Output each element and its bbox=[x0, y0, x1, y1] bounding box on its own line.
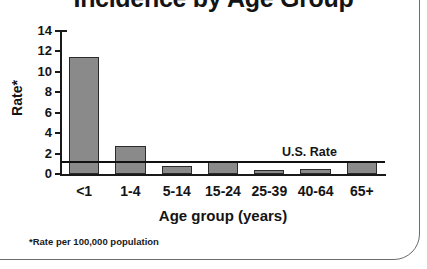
x-axis-title: Age group (years) bbox=[61, 207, 385, 224]
y-axis-tick-12 bbox=[55, 50, 62, 52]
y-axis-tick-4 bbox=[55, 132, 62, 134]
y-axis-tick-10 bbox=[55, 71, 62, 73]
y-axis-tick-label-14: 14 bbox=[30, 24, 52, 37]
x-axis-tick-label-25-39: 25-39 bbox=[246, 183, 292, 199]
y-axis-tick-label-6: 6 bbox=[30, 106, 52, 119]
y-axis-tick-8 bbox=[55, 91, 62, 93]
x-axis-tick-label-40-64: 40-64 bbox=[292, 183, 338, 199]
y-axis-tick-label-8: 8 bbox=[30, 85, 52, 98]
bar-40-64 bbox=[300, 169, 330, 174]
y-axis-tick-label-12: 12 bbox=[30, 44, 52, 57]
us-rate-label: U.S. Rate bbox=[282, 145, 337, 159]
bar-65+ bbox=[347, 162, 377, 174]
y-axis-tick-2 bbox=[55, 153, 62, 155]
y-axis-tick-labels: 02468101214 bbox=[26, 0, 52, 269]
y-axis-tick-label-2: 2 bbox=[30, 147, 52, 160]
x-axis-spine bbox=[60, 174, 386, 176]
x-axis-tick-label-15-24: 15-24 bbox=[200, 183, 246, 199]
bar-5-14 bbox=[162, 166, 192, 174]
us-rate-line bbox=[61, 161, 385, 163]
y-axis-tick-0 bbox=[55, 173, 62, 175]
x-axis-tick-label-<1: <1 bbox=[61, 183, 107, 199]
x-axis-tick-label-1-4: 1-4 bbox=[107, 183, 153, 199]
x-axis-tick-label-65+: 65+ bbox=[339, 183, 385, 199]
bar-25-39 bbox=[254, 170, 284, 174]
y-axis-tick-label-4: 4 bbox=[30, 126, 52, 139]
chart-title: Incidence by Age Group bbox=[0, 0, 427, 13]
y-axis-tick-label-0: 0 bbox=[30, 167, 52, 180]
bar-<1 bbox=[69, 57, 99, 174]
y-axis-title: Rate* bbox=[9, 70, 25, 126]
chart-footnote: *Rate per 100,000 population bbox=[29, 236, 159, 247]
y-axis-tick-label-10: 10 bbox=[30, 65, 52, 78]
y-axis-tick-14 bbox=[55, 30, 62, 32]
x-axis-tick-labels: <11-45-1415-2425-3940-6465+ bbox=[61, 183, 385, 203]
x-axis-tick-label-5-14: 5-14 bbox=[154, 183, 200, 199]
y-axis-tick-6 bbox=[55, 112, 62, 114]
